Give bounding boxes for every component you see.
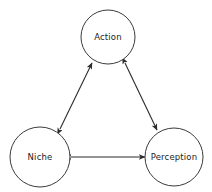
node-perception-label: Perception bbox=[151, 152, 197, 162]
node-niche: Niche bbox=[10, 127, 70, 187]
diagram-svg: Action Niche Perception bbox=[0, 0, 212, 192]
edge-group bbox=[60, 63, 157, 157]
node-niche-label: Niche bbox=[28, 152, 53, 162]
node-action-label: Action bbox=[94, 32, 122, 42]
edge-action-perception bbox=[125, 63, 157, 130]
node-action: Action bbox=[81, 10, 135, 64]
node-perception: Perception bbox=[145, 128, 203, 186]
edge-niche-action bbox=[60, 63, 92, 129]
diagram-canvas: Action Niche Perception bbox=[0, 0, 212, 192]
